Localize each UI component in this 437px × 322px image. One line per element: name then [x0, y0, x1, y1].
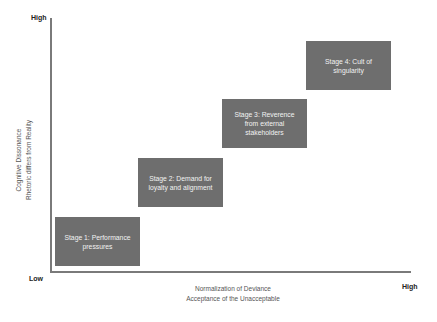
stage-3-label: Stage 3: Reverence from external stakeho…: [228, 110, 301, 137]
y-axis-title-line1: Cognitive Dissonance: [14, 90, 24, 230]
y-axis-line: [50, 18, 52, 273]
y-axis-high-label: High: [31, 14, 47, 21]
x-axis-high-label: High: [402, 283, 418, 290]
stage-4-box: Stage 4: Cult of singularity: [306, 41, 391, 90]
stage-3-box: Stage 3: Reverence from external stakeho…: [222, 99, 307, 148]
stage-1-label: Stage 1: Performance pressures: [61, 233, 134, 251]
x-axis-line: [50, 271, 411, 273]
y-axis-title-line2: Rhetoric differs from Reality: [24, 90, 34, 230]
stage-4-label: Stage 4: Cult of singularity: [312, 57, 385, 75]
stage-2-label: Stage 2: Demand for loyalty and alignmen…: [144, 174, 217, 192]
x-axis-title-line2: Acceptance of the Unacceptable: [153, 295, 313, 302]
y-axis-low-label: Low: [29, 275, 43, 282]
x-axis-title-line1: Normalization of Deviance: [153, 285, 313, 292]
y-axis-title: Cognitive Dissonance Rhetoric differs fr…: [14, 90, 34, 230]
stage-1-box: Stage 1: Performance pressures: [55, 217, 140, 266]
stage-2-box: Stage 2: Demand for loyalty and alignmen…: [138, 158, 223, 207]
